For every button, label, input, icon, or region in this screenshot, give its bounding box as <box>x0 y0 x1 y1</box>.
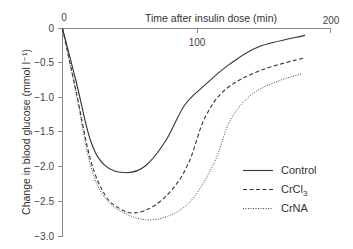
x-tick-label: 100 <box>189 37 206 48</box>
svg-text:CrCl3: CrCl3 <box>281 183 308 198</box>
chart: 0 −0.5 −1.0 −1.5 −2.0 −2.5 −3.0 0 100 20… <box>0 0 353 249</box>
legend-item-crcl3: CrCl3 <box>243 183 308 198</box>
x-tick-label: 200 <box>323 15 340 26</box>
y-axis <box>58 28 63 237</box>
svg-text:CrNA: CrNA <box>281 202 309 214</box>
y-tick-label: −0.5 <box>34 57 54 68</box>
y-tick-label: −2.0 <box>34 161 54 172</box>
legend-item-control: Control <box>243 164 316 176</box>
y-tick-label: 0 <box>48 23 54 34</box>
y-axis-title: Change in blood glucose (mmol l⁻¹) <box>20 49 32 215</box>
y-tick-label: −3.0 <box>34 231 54 242</box>
series-line-control <box>63 29 306 173</box>
legend-item-crna: CrNA <box>243 202 309 214</box>
x-tick-label: 0 <box>61 12 67 23</box>
x-axis-title: Time after insulin dose (min) <box>145 12 277 24</box>
series-line-crna <box>63 29 303 220</box>
svg-text:Control: Control <box>281 164 316 176</box>
y-tick-label: −1.0 <box>34 92 54 103</box>
y-tick-label: −2.5 <box>34 196 54 207</box>
x-axis <box>62 29 331 34</box>
legend: Control CrCl3 CrNA <box>243 164 316 214</box>
y-tick-label: −1.5 <box>34 126 54 137</box>
series-line-crcl3 <box>63 29 306 214</box>
